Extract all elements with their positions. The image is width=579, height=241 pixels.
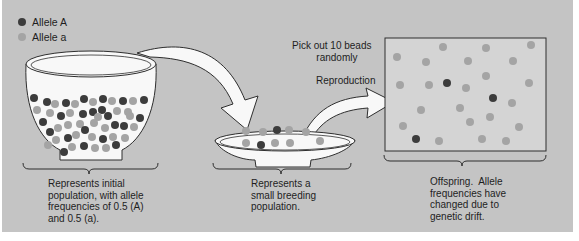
- initial-population-caption: Represents initial population, with alle…: [48, 178, 144, 224]
- caption-line: small breeding: [251, 190, 316, 202]
- caption-line: changed due to: [430, 199, 506, 211]
- label-line: randomly: [292, 52, 372, 64]
- caption-line: Represents a: [251, 178, 316, 190]
- offspring-caption: Offspring. Allele frequencies have chang…: [430, 176, 506, 222]
- breeding-population-caption: Represents a small breeding population.: [251, 178, 316, 213]
- label-line: Reproduction: [316, 75, 375, 87]
- label-line: Pick out 10 beads: [292, 40, 372, 52]
- caption-line: Represents initial: [48, 178, 144, 190]
- offspring-box: [385, 38, 546, 151]
- breeding-population-dish: [215, 126, 355, 167]
- initial-population-bowl: [26, 51, 156, 160]
- caption-line: population, with allele: [48, 190, 144, 202]
- reproduction-arrow-label: Reproduction: [316, 75, 375, 87]
- caption-line: frequencies have: [430, 188, 506, 200]
- pick-arrow-label: Pick out 10 beads randomly: [292, 40, 372, 63]
- reproduction-arrow-icon: [302, 88, 394, 138]
- caption-line: Offspring. Allele: [430, 176, 506, 188]
- caption-line: population.: [251, 201, 316, 213]
- caption-line: frequencies of 0.5 (A): [48, 201, 144, 213]
- caption-line: and 0.5 (a).: [48, 213, 144, 225]
- caption-line: genetic drift.: [430, 211, 506, 223]
